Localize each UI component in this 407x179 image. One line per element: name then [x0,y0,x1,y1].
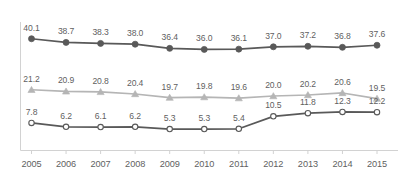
data-point-marker [374,109,379,114]
data-point-marker [340,109,345,114]
data-point-marker [339,44,345,50]
data-label: 5.3 [164,114,176,123]
x-tick-label: 2009 [160,160,180,169]
data-point-marker [236,126,241,131]
data-label: 37.6 [369,30,385,39]
data-label: 7.8 [26,108,38,117]
x-tick-label: 2012 [263,160,283,169]
line-chart: 40.138.738.338.036.436.036.137.037.236.8… [0,0,407,179]
x-tick-label: 2013 [298,160,318,169]
data-label: 6.2 [60,112,72,121]
data-label: 10.5 [265,101,281,110]
data-point-marker [202,126,207,131]
data-label: 20.2 [300,80,316,89]
data-label: 5.4 [233,114,245,123]
data-point-marker [374,42,380,48]
x-tick-label: 2005 [21,160,41,169]
x-tick-label: 2014 [332,160,352,169]
data-label: 36.0 [196,34,212,43]
data-label: 38.3 [92,28,108,37]
data-point-marker [167,45,173,51]
data-point-marker [305,110,310,115]
data-point-marker [305,43,311,49]
data-label: 19.5 [369,84,385,93]
data-point-marker [63,124,68,129]
data-point-marker [98,124,103,129]
data-label: 20.4 [127,79,143,88]
data-point-marker [29,36,35,42]
data-label: 19.7 [162,83,178,92]
data-point-marker [271,114,276,119]
data-label: 38.7 [58,27,74,36]
x-tick-label: 2008 [125,160,145,169]
data-label: 6.2 [129,112,141,121]
data-label: 37.2 [300,31,316,40]
data-point-marker [132,41,138,47]
data-label: 36.8 [334,32,350,41]
data-label: 20.0 [265,81,281,90]
x-tick-label: 2007 [91,160,111,169]
data-point-marker [63,39,69,45]
data-label: 12.2 [369,97,385,106]
data-label: 20.8 [92,77,108,86]
x-tick-label: 2010 [194,160,214,169]
data-point-marker [201,46,207,52]
data-point-marker [236,46,242,52]
data-label: 5.3 [198,114,210,123]
data-label: 19.8 [196,82,212,91]
x-tick-label: 2011 [229,160,248,169]
x-tick-label: 2015 [367,160,387,169]
data-label: 20.9 [58,76,74,85]
x-tick-label: 2006 [56,160,76,169]
data-point-marker [132,124,137,129]
data-label: 37.0 [265,32,281,41]
data-label: 36.1 [231,34,247,43]
data-label: 20.6 [334,78,350,87]
data-label: 6.1 [95,112,107,121]
data-point-marker [270,44,276,50]
data-point-marker [98,40,104,46]
data-label: 40.1 [23,24,39,33]
data-label: 19.6 [231,83,247,92]
data-label: 12.3 [334,97,350,106]
data-label: 11.8 [300,98,316,107]
data-label: 21.2 [23,75,39,84]
data-label: 38.0 [127,29,143,38]
data-point-marker [167,126,172,131]
data-label: 36.4 [162,33,178,42]
data-point-marker [29,120,34,125]
